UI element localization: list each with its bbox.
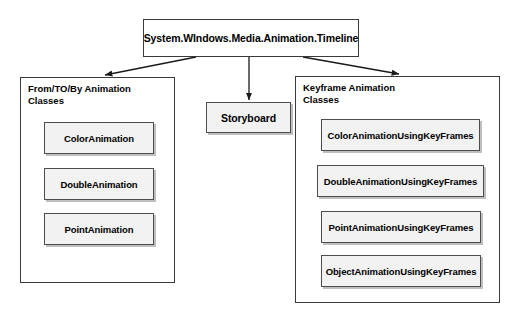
group-from-to-by: From/TO/By Animation Classes ColorAnimat… (20, 77, 175, 283)
node-object-animation-using-keyframes[interactable]: ObjectAnimationUsingKeyFrames (321, 255, 481, 287)
node-storyboard[interactable]: Storyboard (206, 102, 291, 133)
group-keyframe: Keyframe Animation Classes ColorAnimatio… (295, 76, 500, 303)
group-keyframe-title-line2: Classes (303, 94, 339, 105)
group-from-to-by-title: From/TO/By Animation Classes (28, 83, 158, 107)
diagram-canvas: System.WIndows.Media.Animation.Timeline … (0, 0, 518, 320)
edge-timeline-to-keyframe (303, 57, 399, 74)
node-timeline[interactable]: System.WIndows.Media.Animation.Timeline (143, 19, 359, 57)
group-from-to-by-title-line2: Classes (28, 95, 64, 106)
node-color-animation[interactable]: ColorAnimation (44, 122, 154, 154)
node-double-animation-using-keyframes[interactable]: DoubleAnimationUsingKeyFrames (317, 165, 484, 197)
node-point-animation[interactable]: PointAnimation (44, 213, 154, 245)
node-color-animation-using-keyframes[interactable]: ColorAnimationUsingKeyFrames (321, 119, 480, 151)
group-keyframe-title: Keyframe Animation Classes (303, 82, 433, 106)
group-from-to-by-title-line1: From/TO/By Animation (28, 83, 131, 94)
node-point-animation-using-keyframes[interactable]: PointAnimationUsingKeyFrames (321, 211, 481, 243)
group-keyframe-title-line1: Keyframe Animation (303, 82, 395, 93)
node-double-animation[interactable]: DoubleAnimation (44, 168, 154, 200)
edge-timeline-to-fromtoby (105, 57, 196, 75)
